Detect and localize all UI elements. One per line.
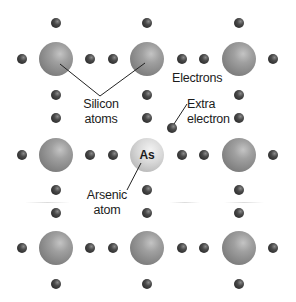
arsenic-leader-line bbox=[127, 163, 141, 190]
extra-electron-leader-line bbox=[174, 104, 187, 124]
electron bbox=[85, 243, 95, 253]
electron bbox=[234, 185, 244, 195]
electrons-label: Electrons bbox=[172, 71, 222, 85]
electron bbox=[17, 243, 27, 253]
electron bbox=[108, 54, 118, 64]
silicon-atom bbox=[130, 231, 164, 265]
arsenic-label-line1: Arsenic bbox=[84, 188, 130, 202]
silicon-label-line2: atoms bbox=[78, 112, 124, 126]
electron bbox=[108, 150, 118, 160]
electron bbox=[234, 208, 244, 218]
silicon-leader-line bbox=[60, 63, 145, 96]
electron bbox=[199, 243, 209, 253]
electron bbox=[108, 243, 118, 253]
extra-electron-label-line2: electron bbox=[187, 112, 230, 126]
silicon-atom bbox=[222, 138, 256, 172]
electron bbox=[177, 243, 187, 253]
silicon-atom bbox=[130, 42, 164, 76]
silicon-atom bbox=[39, 231, 73, 265]
electron bbox=[51, 90, 61, 100]
electron bbox=[142, 90, 152, 100]
electron bbox=[177, 54, 187, 64]
silicon-atom bbox=[222, 42, 256, 76]
electron bbox=[234, 113, 244, 123]
electron bbox=[268, 150, 278, 160]
electron bbox=[17, 54, 27, 64]
silicon-label-line1: Silicon bbox=[78, 97, 124, 111]
electron bbox=[85, 54, 95, 64]
electron bbox=[177, 150, 187, 160]
electron bbox=[142, 185, 152, 195]
electron bbox=[51, 208, 61, 218]
silicon-atom bbox=[222, 231, 256, 265]
electron bbox=[234, 18, 244, 28]
electron bbox=[142, 18, 152, 28]
electron bbox=[234, 90, 244, 100]
electron bbox=[234, 279, 244, 289]
electron bbox=[51, 279, 61, 289]
electron bbox=[268, 243, 278, 253]
electron bbox=[199, 54, 209, 64]
electron bbox=[142, 279, 152, 289]
extra-electron-label-line1: Extra bbox=[187, 97, 215, 111]
electron bbox=[51, 113, 61, 123]
extra-electron bbox=[167, 123, 177, 133]
electron bbox=[268, 54, 278, 64]
electron bbox=[199, 150, 209, 160]
electron bbox=[51, 18, 61, 28]
divider bbox=[25, 202, 70, 203]
electron bbox=[17, 150, 27, 160]
electron bbox=[51, 185, 61, 195]
electron bbox=[142, 113, 152, 123]
electron bbox=[85, 150, 95, 160]
divider bbox=[170, 202, 200, 203]
arsenic-symbol: As bbox=[133, 148, 161, 162]
electron bbox=[142, 208, 152, 218]
divider bbox=[224, 202, 264, 203]
arsenic-label-line2: atom bbox=[84, 203, 130, 217]
silicon-atom bbox=[39, 138, 73, 172]
